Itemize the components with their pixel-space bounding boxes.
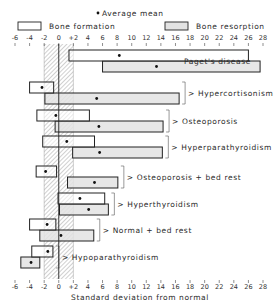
resorption-mean-dot xyxy=(155,65,158,68)
top-tick-label: 28 xyxy=(259,34,267,42)
formation-bar xyxy=(30,219,56,230)
bottom-tick-label: 16 xyxy=(171,283,179,291)
category-label: > Osteoporosis + bed rest xyxy=(127,173,241,182)
legend-formation-swatch xyxy=(18,22,41,30)
category-label: > Hypoparathyroidism xyxy=(62,253,159,262)
formation-bar xyxy=(43,136,95,147)
chart: Average mean Bone formation Bone resorpt… xyxy=(0,0,277,308)
bottom-tick-label: 20 xyxy=(201,283,209,291)
bottom-tick-label: -2 xyxy=(41,283,47,291)
legend-mean-dot xyxy=(97,12,100,15)
category-bracket xyxy=(182,82,185,104)
resorption-mean-dot xyxy=(97,125,100,128)
legend: Average mean Bone formation Bone resorpt… xyxy=(18,9,265,31)
resorption-bar xyxy=(59,204,108,215)
resorption-mean-dot xyxy=(98,151,101,154)
top-tick-label: 6 xyxy=(100,34,104,42)
resorption-mean-dot xyxy=(87,208,90,211)
category-bracket xyxy=(165,136,168,158)
legend-resorption-swatch xyxy=(165,22,188,30)
top-tick-label: 12 xyxy=(142,34,150,42)
resorption-mean-dot xyxy=(95,97,98,100)
category-bracket xyxy=(166,110,169,132)
category-label: > Hypercortisonism xyxy=(188,89,273,98)
formation-mean-dot xyxy=(46,250,49,253)
top-tick-label: -4 xyxy=(26,34,32,42)
bottom-tick-label: 24 xyxy=(230,283,238,291)
bottom-tick-label: 4 xyxy=(86,283,90,291)
formation-mean-dot xyxy=(65,140,68,143)
bottom-tick-label: 28 xyxy=(259,283,267,291)
category-group: > Hyperthyroidism xyxy=(58,193,199,215)
bottom-tick-label: +2 xyxy=(69,283,79,291)
category-group: > Hypoparathyroidism xyxy=(21,246,159,268)
top-tick-label: 26 xyxy=(244,34,252,42)
bottom-tick-label: 0 xyxy=(57,283,61,291)
category-label: > Hyperparathyroidism xyxy=(171,143,272,152)
top-tick-label: 18 xyxy=(186,34,194,42)
category-bracket xyxy=(121,166,124,188)
top-tick-label: 20 xyxy=(201,34,209,42)
category-bracket xyxy=(97,219,100,241)
resorption-bar xyxy=(45,93,179,104)
x-axis-label: Standard deviation from normal xyxy=(71,293,209,302)
top-tick-label: 0 xyxy=(57,34,61,42)
bottom-tick-label: 26 xyxy=(244,283,252,291)
formation-mean-dot xyxy=(54,114,57,117)
resorption-bar xyxy=(73,147,163,158)
resorption-bar xyxy=(40,230,94,241)
resorption-mean-dot xyxy=(30,261,33,264)
top-tick-label: 24 xyxy=(230,34,238,42)
bottom-tick-label: 8 xyxy=(115,283,119,291)
bottom-tick-label: 12 xyxy=(142,283,150,291)
bottom-axis: -6-4-20+246810121416182022242628 xyxy=(12,280,267,291)
category-bracket xyxy=(111,193,114,215)
top-tick-label: 10 xyxy=(128,34,136,42)
category-label: Paget's disease xyxy=(184,57,251,66)
resorption-bar xyxy=(55,121,163,132)
category-group: > Normal + bed rest xyxy=(30,219,192,241)
top-tick-label: 8 xyxy=(115,34,119,42)
top-tick-label: +2 xyxy=(69,34,79,42)
formation-mean-dot xyxy=(44,170,47,173)
top-tick-label: 22 xyxy=(215,34,223,42)
bottom-tick-label: 22 xyxy=(215,283,223,291)
resorption-mean-dot xyxy=(93,181,96,184)
top-tick-label: 16 xyxy=(171,34,179,42)
legend-resorption-label: Bone resorption xyxy=(196,22,265,31)
resorption-mean-dot xyxy=(60,234,63,237)
top-tick-label: 14 xyxy=(157,34,165,42)
category-label: > Osteoporosis xyxy=(172,117,238,126)
top-tick-label: 4 xyxy=(86,34,90,42)
formation-mean-dot xyxy=(79,197,82,200)
top-tick-label: -2 xyxy=(41,34,47,42)
category-group: > Hyperparathyroidism xyxy=(43,136,272,158)
top-tick-label: -6 xyxy=(12,34,18,42)
bottom-tick-label: 6 xyxy=(100,283,104,291)
formation-bar xyxy=(32,246,53,257)
category-group: > Osteoporosis xyxy=(37,110,238,132)
bottom-tick-label: -4 xyxy=(26,283,32,291)
category-label: > Normal + bed rest xyxy=(103,226,192,235)
formation-bar xyxy=(37,110,90,121)
category-label: > Hyperthyroidism xyxy=(117,200,198,209)
formation-mean-dot xyxy=(118,54,121,57)
formation-bar xyxy=(58,193,105,204)
bottom-tick-label: 18 xyxy=(186,283,194,291)
bottom-tick-label: -6 xyxy=(12,283,18,291)
formation-mean-dot xyxy=(41,86,44,89)
legend-mean-label: Average mean xyxy=(102,9,164,18)
legend-formation-label: Bone formation xyxy=(49,22,115,31)
bottom-tick-label: 10 xyxy=(128,283,136,291)
resorption-bar xyxy=(68,177,118,188)
bottom-tick-label: 14 xyxy=(157,283,165,291)
formation-mean-dot xyxy=(46,223,49,226)
category-group: Paget's disease xyxy=(69,50,260,72)
